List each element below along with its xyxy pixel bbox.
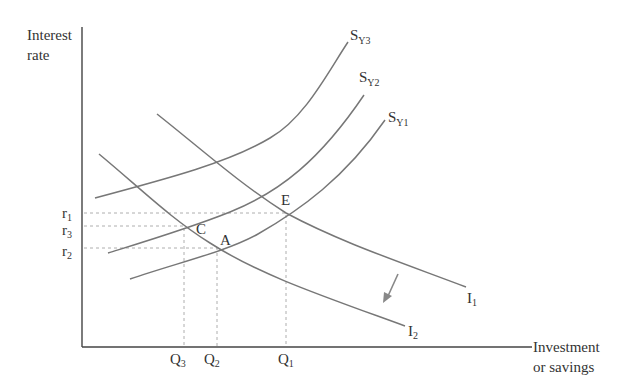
- curve-i1: [157, 114, 466, 287]
- label-sy3: SY3: [350, 27, 371, 46]
- x-axis-label-line2: or savings: [533, 359, 594, 375]
- tick-q2: Q2: [204, 351, 220, 369]
- shift-arrow-icon: [383, 274, 398, 303]
- label-i2: I2: [408, 323, 418, 341]
- label-i1: I1: [467, 290, 477, 308]
- tick-r2: r2: [62, 243, 72, 261]
- curve-sy2: [108, 95, 364, 253]
- guide-lines: [84, 213, 286, 346]
- label-sy2: SY2: [359, 69, 380, 88]
- y-axis-label-line2: rate: [27, 47, 50, 63]
- point-c-label: C: [196, 221, 206, 237]
- tick-q1: Q1: [278, 351, 294, 369]
- curve-sy3: [95, 42, 348, 198]
- curve-i2: [99, 154, 405, 326]
- tick-r3: r3: [62, 222, 72, 240]
- x-axis-label-line1: Investment: [533, 339, 600, 355]
- point-a-label: A: [220, 232, 231, 248]
- tick-q3: Q3: [170, 351, 186, 369]
- point-e-label: E: [281, 192, 290, 208]
- y-axis-label-line1: Interest: [27, 27, 73, 43]
- loanable-funds-chart: Interest rate Investment or savings r1 r…: [0, 0, 641, 391]
- label-sy1: SY1: [388, 109, 409, 128]
- tick-r1: r1: [62, 205, 72, 223]
